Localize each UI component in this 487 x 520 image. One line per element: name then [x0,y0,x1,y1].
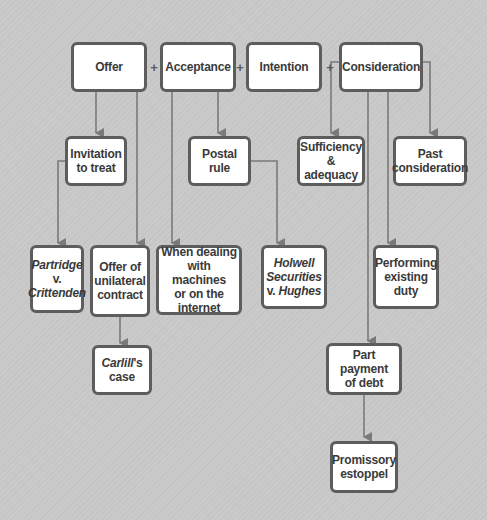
node-intention: Intention [246,42,322,92]
node-label-line: case [109,370,135,384]
node-label-line: estoppel [340,467,388,481]
node-sufficiency-adequacy: Sufficiency & adequacy [297,136,365,186]
node-label-line: Securities [266,270,321,284]
node-label-line: existing [384,270,428,284]
node-label-line: Promissory [332,453,396,467]
node-label-line: of debt [345,376,384,390]
node-part-payment-of-debt: Part payment of debt [326,343,402,395]
node-label-line: unilateral [94,274,145,288]
node-label-line: Holwell [274,256,315,270]
node-label-line: duty [394,284,419,298]
node-label-line: Performing [375,256,437,270]
node-label-line: Offer of [99,260,141,274]
node-label: Acceptance [165,60,230,74]
node-offer: Offer [71,42,147,92]
node-past-consideration: Past consideration [393,136,467,186]
node-label-line: Past [418,147,443,161]
node-label: Postal rule [193,147,246,175]
node-label: Consideration [342,60,420,74]
node-acceptance: Acceptance [160,42,236,92]
node-label-line: consideration [392,161,468,175]
node-partridge-v-crittenden: Partridge v. Crittenden [30,245,84,313]
node-label: Intention [260,60,309,74]
node-label-line: Sufficiency [300,140,362,154]
node-label-line: 's [133,356,142,370]
node-invitation-to-treat: Invitation to treat [65,136,127,186]
node-label-line: Invitation [70,147,121,161]
node-label: Offer [95,60,123,74]
node-promissory-estoppel: Promissory estoppel [330,441,398,493]
node-label-line: Crittenden [28,286,86,300]
node-when-dealing-with-machines: When dealing with machines or on the int… [156,245,242,315]
node-label-line: v. [53,272,62,286]
node-label-line: contract [97,288,143,302]
node-label-line: v. [267,284,279,298]
node-carlills-case: Carlill's case [92,345,152,395]
node-label-line: When dealing [161,245,237,259]
node-label-line: internet [178,301,220,315]
node-label-line: or on the [174,287,224,301]
node-holwell-securities-v-hughes: Holwell Securities v. Hughes [261,245,327,309]
node-label-line: Part payment [340,348,388,376]
plus-sign: + [234,61,246,74]
node-label-line: & adequacy [304,154,358,182]
node-consideration: Consideration [339,42,423,92]
node-label-line: Carlill [101,356,133,370]
node-label-line: Partridge [32,258,83,272]
node-performing-existing-duty: Performing existing duty [373,245,439,309]
node-label-line: Hughes [279,284,322,298]
node-postal-rule: Postal rule [188,136,251,186]
node-label-line: with machines [172,259,226,287]
plus-sign: + [148,61,160,74]
node-offer-of-unilateral-contract: Offer of unilateral contract [90,245,150,317]
node-label-line: to treat [76,161,115,175]
plus-sign: + [324,61,336,74]
